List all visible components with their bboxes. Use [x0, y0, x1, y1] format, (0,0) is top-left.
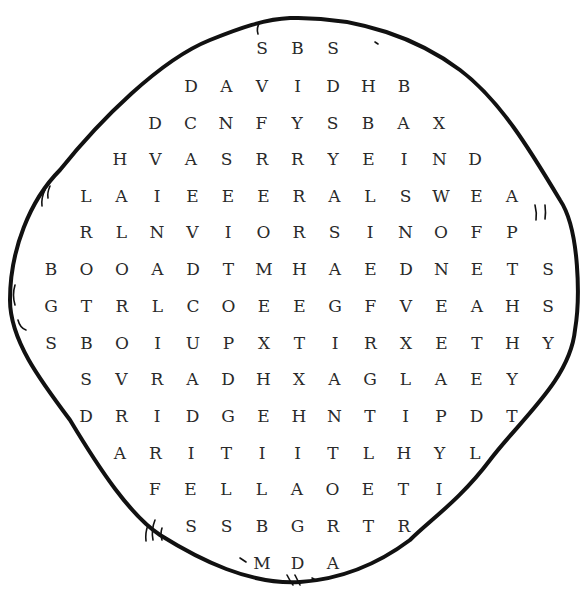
- letter-cell[interactable]: I: [286, 443, 310, 463]
- letter-cell[interactable]: E: [359, 259, 383, 279]
- letter-cell[interactable]: H: [357, 76, 381, 96]
- letter-cell[interactable]: A: [465, 296, 489, 316]
- letter-cell[interactable]: E: [288, 296, 312, 316]
- letter-cell[interactable]: H: [287, 406, 311, 426]
- letter-cell[interactable]: H: [501, 296, 525, 316]
- letter-cell[interactable]: F: [143, 479, 167, 499]
- letter-cell[interactable]: X: [287, 369, 311, 389]
- letter-cell[interactable]: T: [501, 259, 525, 279]
- letter-cell[interactable]: A: [215, 76, 239, 96]
- letter-cell[interactable]: R: [392, 516, 416, 536]
- letter-cell[interactable]: O: [217, 296, 241, 316]
- letter-cell[interactable]: T: [215, 443, 239, 463]
- letter-cell[interactable]: T: [217, 259, 241, 279]
- letter-cell[interactable]: W: [429, 186, 453, 206]
- letter-cell[interactable]: H: [108, 149, 132, 169]
- letter-cell[interactable]: O: [75, 259, 99, 279]
- letter-cell[interactable]: L: [358, 186, 382, 206]
- letter-cell[interactable]: I: [145, 406, 169, 426]
- letter-cell[interactable]: A: [500, 186, 524, 206]
- letter-cell[interactable]: G: [216, 406, 240, 426]
- letter-cell[interactable]: G: [286, 516, 310, 536]
- letter-cell[interactable]: S: [323, 222, 347, 242]
- letter-cell[interactable]: A: [110, 186, 134, 206]
- letter-cell[interactable]: I: [286, 76, 310, 96]
- letter-cell[interactable]: Y: [500, 369, 524, 389]
- letter-cell[interactable]: H: [392, 443, 416, 463]
- letter-cell[interactable]: S: [394, 186, 418, 206]
- letter-cell[interactable]: L: [463, 443, 487, 463]
- letter-cell[interactable]: V: [110, 369, 134, 389]
- letter-cell[interactable]: S: [74, 369, 98, 389]
- letter-cell[interactable]: B: [392, 76, 416, 96]
- letter-cell[interactable]: A: [181, 369, 205, 389]
- letter-cell[interactable]: C: [179, 113, 203, 133]
- letter-cell[interactable]: L: [146, 296, 170, 316]
- letter-cell[interactable]: S: [536, 259, 560, 279]
- letter-cell[interactable]: G: [358, 369, 382, 389]
- letter-cell[interactable]: X: [394, 333, 418, 353]
- letter-cell[interactable]: F: [250, 113, 274, 133]
- letter-cell[interactable]: B: [250, 516, 274, 536]
- letter-cell[interactable]: I: [145, 186, 169, 206]
- letter-cell[interactable]: R: [287, 222, 311, 242]
- letter-cell[interactable]: M: [250, 553, 274, 573]
- letter-cell[interactable]: B: [356, 113, 380, 133]
- letter-cell[interactable]: D: [143, 113, 167, 133]
- letter-cell[interactable]: I: [358, 222, 382, 242]
- letter-cell[interactable]: E: [181, 186, 205, 206]
- letter-cell[interactable]: E: [465, 369, 489, 389]
- letter-cell[interactable]: R: [287, 186, 311, 206]
- letter-cell[interactable]: T: [500, 406, 524, 426]
- letter-cell[interactable]: Y: [321, 149, 345, 169]
- letter-cell[interactable]: U: [181, 333, 205, 353]
- letter-cell[interactable]: B: [39, 259, 63, 279]
- letter-cell[interactable]: V: [181, 222, 205, 242]
- letter-cell[interactable]: L: [357, 443, 381, 463]
- letter-cell[interactable]: N: [428, 149, 452, 169]
- letter-cell[interactable]: M: [252, 259, 276, 279]
- letter-cell[interactable]: E: [252, 296, 276, 316]
- letter-cell[interactable]: T: [465, 333, 489, 353]
- letter-cell[interactable]: S: [39, 333, 63, 353]
- letter-cell[interactable]: E: [430, 333, 454, 353]
- letter-cell[interactable]: N: [430, 259, 454, 279]
- letter-cell[interactable]: F: [465, 222, 489, 242]
- letter-cell[interactable]: H: [252, 369, 276, 389]
- letter-cell[interactable]: C: [181, 296, 205, 316]
- letter-cell[interactable]: T: [358, 406, 382, 426]
- letter-cell[interactable]: I: [179, 443, 203, 463]
- letter-cell[interactable]: E: [465, 259, 489, 279]
- letter-cell[interactable]: I: [427, 479, 451, 499]
- letter-cell[interactable]: N: [323, 406, 347, 426]
- letter-cell[interactable]: Y: [285, 113, 309, 133]
- letter-cell[interactable]: R: [110, 296, 134, 316]
- letter-cell[interactable]: E: [465, 186, 489, 206]
- letter-cell[interactable]: E: [252, 406, 276, 426]
- letter-cell[interactable]: E: [357, 149, 381, 169]
- letter-cell[interactable]: A: [108, 443, 132, 463]
- letter-cell[interactable]: D: [394, 259, 418, 279]
- letter-cell[interactable]: L: [74, 186, 98, 206]
- letter-cell[interactable]: Y: [536, 333, 560, 353]
- letter-cell[interactable]: S: [215, 149, 239, 169]
- letter-cell[interactable]: I: [146, 333, 170, 353]
- letter-cell[interactable]: E: [356, 479, 380, 499]
- letter-cell[interactable]: S: [250, 38, 274, 58]
- letter-cell[interactable]: O: [252, 222, 276, 242]
- letter-cell[interactable]: T: [75, 296, 99, 316]
- letter-cell[interactable]: P: [429, 406, 453, 426]
- letter-cell[interactable]: P: [500, 222, 524, 242]
- letter-cell[interactable]: A: [179, 149, 203, 169]
- letter-cell[interactable]: N: [145, 222, 169, 242]
- letter-cell[interactable]: R: [359, 333, 383, 353]
- letter-cell[interactable]: D: [286, 553, 310, 573]
- letter-cell[interactable]: E: [430, 296, 454, 316]
- letter-cell[interactable]: D: [465, 406, 489, 426]
- letter-cell[interactable]: L: [214, 479, 238, 499]
- letter-cell[interactable]: S: [321, 38, 345, 58]
- letter-cell[interactable]: R: [286, 149, 310, 169]
- letter-cell[interactable]: A: [429, 369, 453, 389]
- letter-cell[interactable]: V: [144, 149, 168, 169]
- letter-cell[interactable]: R: [74, 222, 98, 242]
